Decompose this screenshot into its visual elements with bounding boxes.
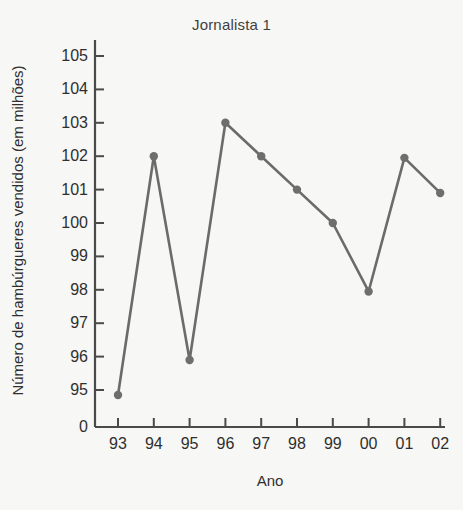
data-point-marker[interactable] bbox=[185, 356, 193, 364]
data-point-marker[interactable] bbox=[221, 119, 229, 127]
data-point-marker[interactable] bbox=[293, 185, 301, 193]
data-point-marker[interactable] bbox=[114, 391, 122, 399]
plot-area bbox=[0, 0, 463, 510]
data-point-marker[interactable] bbox=[400, 154, 408, 162]
data-point-marker[interactable] bbox=[329, 219, 337, 227]
line-chart: Jornalista 1 Número de hambúrgueres vend… bbox=[0, 0, 463, 510]
data-point-marker[interactable] bbox=[436, 189, 444, 197]
data-point-marker[interactable] bbox=[150, 152, 158, 160]
data-point-marker[interactable] bbox=[257, 152, 265, 160]
data-line bbox=[118, 123, 440, 395]
data-point-marker[interactable] bbox=[364, 287, 372, 295]
